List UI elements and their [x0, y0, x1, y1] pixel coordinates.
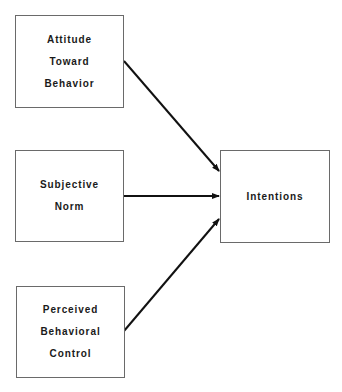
box-label-line: Behavioral — [40, 321, 100, 343]
box-label-line: Subjective — [40, 174, 99, 196]
box-attitude-toward-behavior: Attitude Toward Behavior — [15, 15, 124, 108]
box-subjective-norm: Subjective Norm — [15, 150, 124, 242]
box-intentions: Intentions — [220, 150, 330, 243]
arrow-control-to-intentions — [124, 219, 219, 331]
box-label-line: Behavior — [45, 73, 95, 95]
box-label-line: Attitude — [47, 29, 92, 51]
box-label-line: Intentions — [247, 186, 304, 208]
box-label-line: Control — [50, 343, 92, 365]
arrow-attitude-to-intentions — [124, 61, 219, 171]
box-perceived-behavioral-control: Perceived Behavioral Control — [16, 286, 125, 378]
box-label-line: Norm — [55, 196, 85, 218]
box-label-line: Toward — [49, 51, 89, 73]
box-label-line: Perceived — [43, 299, 98, 321]
